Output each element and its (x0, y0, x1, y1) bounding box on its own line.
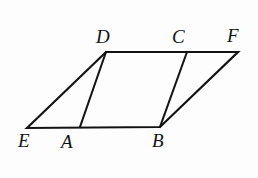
figure-canvas (0, 0, 258, 178)
vertex-label-A: A (61, 132, 73, 151)
vertex-label-C: C (172, 27, 185, 46)
geometry-figure: D C F E A B (0, 0, 258, 178)
vertex-label-E: E (18, 131, 30, 150)
vertex-label-D: D (96, 27, 110, 46)
vertex-label-F: F (227, 26, 239, 45)
figure-background (0, 0, 258, 178)
vertex-label-B: B (152, 131, 164, 150)
